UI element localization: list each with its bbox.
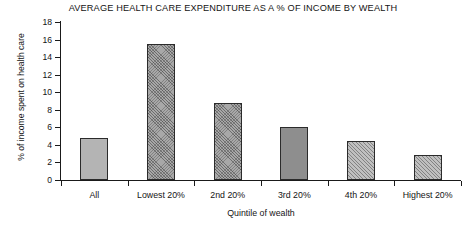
- x-axis-tick: [461, 181, 462, 186]
- x-axis-category-label: Highest 20%: [394, 190, 461, 200]
- x-axis-tick: [194, 181, 195, 186]
- y-axis-tick: [55, 40, 60, 41]
- y-axis-tick: [55, 145, 60, 146]
- y-axis-tick: [55, 22, 60, 23]
- bar-4th-20: [347, 141, 375, 180]
- chart-title: AVERAGE HEALTH CARE EXPENDITURE AS A % O…: [0, 3, 466, 13]
- y-axis-tick: [55, 92, 60, 93]
- x-axis-tick: [394, 181, 395, 186]
- plot-area: [61, 22, 461, 180]
- y-axis-tick: [55, 180, 60, 181]
- x-axis-category-label: 3rd 20%: [261, 190, 328, 200]
- bar-highest-20: [414, 155, 442, 180]
- x-axis-title: Quintile of wealth: [61, 208, 461, 218]
- y-axis-tick: [55, 162, 60, 163]
- x-axis-category-label: All: [61, 190, 128, 200]
- y-axis-tick: [55, 110, 60, 111]
- x-axis-category-label: 2nd 20%: [194, 190, 261, 200]
- y-axis-tick: [55, 127, 60, 128]
- bar-3rd-20: [280, 127, 308, 180]
- x-axis-tick: [61, 181, 62, 186]
- x-axis-tick: [328, 181, 329, 186]
- bar-lowest-20: [147, 44, 175, 180]
- bar-all: [80, 138, 108, 180]
- x-axis-tick: [128, 181, 129, 186]
- y-axis-tick: [55, 75, 60, 76]
- x-axis-category-label: Lowest 20%: [128, 190, 195, 200]
- bar-chart: AVERAGE HEALTH CARE EXPENDITURE AS A % O…: [0, 0, 466, 229]
- y-axis-title: % of income spent on health care: [16, 12, 26, 182]
- x-axis-tick: [261, 181, 262, 186]
- x-axis-category-label: 4th 20%: [328, 190, 395, 200]
- bar-2nd-20: [214, 103, 242, 180]
- y-axis-tick: [55, 57, 60, 58]
